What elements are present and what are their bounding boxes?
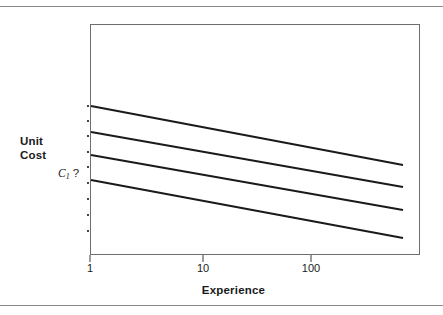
x-tick-label-10: 10 xyxy=(183,262,223,274)
y-axis-label: Unit Cost xyxy=(20,134,82,162)
c1-annotation: C1? xyxy=(58,167,79,181)
bottom-divider-rule xyxy=(0,305,443,306)
y-axis-label-line2: Cost xyxy=(20,148,82,162)
plot-area-frame xyxy=(90,24,420,255)
c1-annotation-subscript: 1 xyxy=(66,172,70,181)
c1-annotation-symbol: C xyxy=(58,167,66,179)
y-axis-label-line1: Unit xyxy=(20,134,82,148)
experience-curve-figure: Unit Cost C1? 1 10 100 Experience xyxy=(0,0,443,315)
y-axis-tick-dots xyxy=(87,105,89,232)
x-axis-label: Experience xyxy=(0,283,443,297)
top-divider-rule xyxy=(0,6,443,7)
x-tick-label-1: 1 xyxy=(70,262,110,274)
x-tick-label-100: 100 xyxy=(291,262,331,274)
c1-annotation-query: ? xyxy=(73,167,79,179)
x-axis-tick-marks xyxy=(90,255,311,262)
